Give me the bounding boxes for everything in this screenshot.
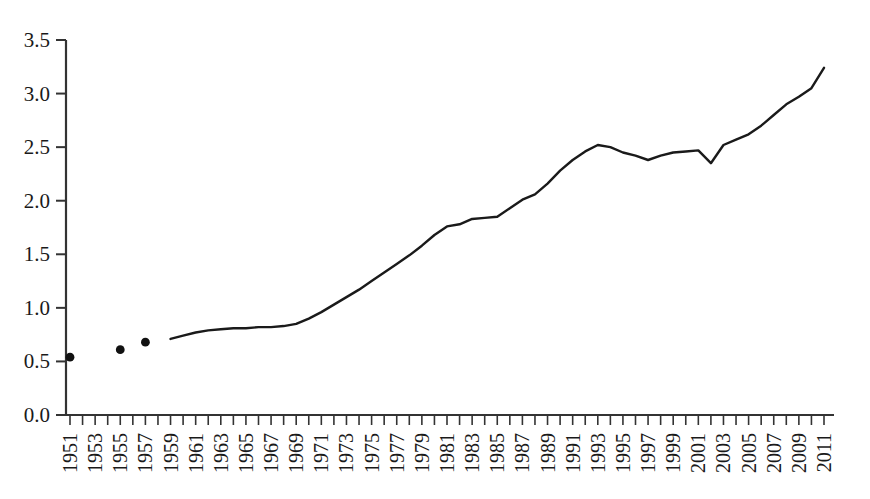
- x-tick-label: 1965: [235, 433, 257, 473]
- series-line: [171, 68, 824, 339]
- y-tick-label: 2.0: [24, 189, 50, 213]
- x-tick-label: 1995: [612, 433, 634, 473]
- x-tick-label: 2001: [687, 433, 709, 473]
- x-axis-tick-labels: 1951195319551957195919611963196519671969…: [59, 433, 835, 473]
- x-tick-label: 2009: [788, 433, 810, 473]
- x-tick-label: 1971: [310, 433, 332, 473]
- x-tick-label: 1969: [285, 433, 307, 473]
- y-tick-label: 1.0: [24, 296, 50, 320]
- x-tick-label: 1973: [335, 433, 357, 473]
- x-tick-label: 1953: [84, 433, 106, 473]
- x-axis-ticks: [70, 415, 824, 425]
- x-tick-label: 2007: [763, 433, 785, 473]
- x-tick-label: 1993: [587, 433, 609, 473]
- x-tick-label: 1985: [486, 433, 508, 473]
- x-tick-label: 1979: [411, 433, 433, 473]
- x-tick-label: 1975: [361, 433, 383, 473]
- y-tick-label: 1.5: [24, 242, 50, 266]
- x-tick-label: 1951: [59, 433, 81, 473]
- y-axis-ticks: [56, 40, 66, 415]
- x-tick-label: 1999: [662, 433, 684, 473]
- x-tick-label: 1967: [260, 433, 282, 473]
- x-tick-label: 1987: [511, 433, 533, 473]
- x-tick-label: 1977: [386, 433, 408, 473]
- data-point-marker: [141, 338, 150, 347]
- x-tick-label: 1955: [109, 433, 131, 473]
- x-tick-label: 1959: [160, 433, 182, 473]
- x-tick-label: 1997: [637, 433, 659, 473]
- data-point-marker: [116, 345, 125, 354]
- x-tick-label: 2003: [712, 433, 734, 473]
- y-tick-label: 3.5: [24, 28, 50, 52]
- x-tick-label: 1989: [537, 433, 559, 473]
- x-tick-label: 1991: [562, 433, 584, 473]
- x-tick-label: 1957: [134, 433, 156, 473]
- x-tick-label: 1983: [461, 433, 483, 473]
- y-tick-label: 2.5: [24, 135, 50, 159]
- x-tick-label: 1963: [210, 433, 232, 473]
- y-axis-tick-labels: 0.00.51.01.52.02.53.03.5: [24, 28, 50, 427]
- line-chart-plot: 0.00.51.01.52.02.53.03.5 195119531955195…: [0, 0, 870, 499]
- y-tick-label: 0.0: [24, 403, 50, 427]
- data-point-marker: [66, 353, 75, 362]
- x-tick-label: 2011: [813, 433, 835, 472]
- chart-figure: 0.00.51.01.52.02.53.03.5 195119531955195…: [0, 0, 870, 499]
- axes: [66, 40, 834, 415]
- y-tick-label: 3.0: [24, 82, 50, 106]
- y-tick-label: 0.5: [24, 349, 50, 373]
- x-tick-label: 1961: [185, 433, 207, 473]
- scatter-markers: [66, 338, 150, 362]
- data-series: [171, 68, 824, 339]
- x-tick-label: 1981: [436, 433, 458, 473]
- x-tick-label: 2005: [738, 433, 760, 473]
